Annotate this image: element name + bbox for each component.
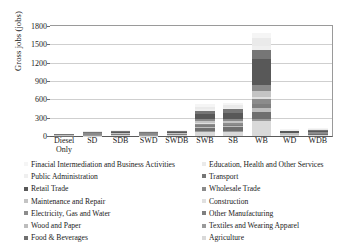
x-axis-tick-label: WB	[248, 137, 275, 154]
x-axis-tick-label: SWDB	[163, 137, 190, 154]
legend-item[interactable]: Finacial Intermediation and Business Act…	[24, 158, 196, 170]
legend-item-label: Other Manufacturing	[209, 209, 273, 218]
legend-column-left: Finacial Intermediation and Business Act…	[24, 158, 196, 244]
legend-item-label: Retail Trade	[31, 184, 68, 193]
legend-swatch-icon	[202, 211, 206, 215]
legend-swatch-icon	[24, 224, 28, 228]
bar-column	[304, 26, 331, 136]
bar-column	[135, 26, 162, 136]
legend-item-label: Maintenance and Repair	[31, 197, 105, 206]
legend-item-label: Electricity, Gas and Water	[31, 209, 110, 218]
legend-item[interactable]: Transport	[202, 170, 354, 182]
legend-item-label: Wood and Paper	[31, 221, 81, 230]
y-axis-title: Gross jobs (jobs)	[13, 0, 23, 101]
x-axis-tick-label: Diesel Only	[51, 137, 78, 154]
legend-swatch-icon	[24, 211, 28, 215]
legend-swatch-icon	[24, 187, 28, 191]
bar-column	[276, 26, 303, 136]
bar-column	[51, 26, 78, 136]
legend-item-label: Education, Health and Other Services	[209, 160, 324, 169]
bar-segment	[252, 121, 271, 136]
bar-segment	[252, 50, 271, 59]
stacked-bar[interactable]	[195, 104, 214, 136]
legend: Finacial Intermediation and Business Act…	[24, 158, 354, 244]
bar-column	[79, 26, 106, 136]
bar-segment	[252, 38, 271, 45]
bar-column	[248, 26, 275, 136]
legend-swatch-icon	[202, 199, 206, 203]
stacked-bar[interactable]	[280, 129, 299, 136]
legend-item-label: Food & Beverages	[31, 233, 88, 242]
legend-item[interactable]: Other Manufacturing	[202, 207, 354, 219]
legend-item[interactable]: Textiles and Wearing Apparel	[202, 219, 354, 231]
stacked-bar-chart: Gross jobs (jobs) 0300600900120015001800…	[0, 0, 356, 245]
bar-segment	[252, 112, 271, 119]
legend-item[interactable]: Food & Beverages	[24, 232, 196, 244]
legend-item[interactable]: Education, Health and Other Services	[202, 158, 354, 170]
legend-swatch-icon	[24, 236, 28, 240]
bar-column	[107, 26, 134, 136]
bar-group	[50, 26, 332, 136]
legend-item-label: Transport	[209, 172, 238, 181]
x-axis-tick-label: SB	[220, 137, 247, 154]
legend-item[interactable]: Wholesale Trade	[202, 183, 354, 195]
legend-swatch-icon	[24, 199, 28, 203]
bar-column	[163, 26, 190, 136]
legend-swatch-icon	[202, 174, 206, 178]
y-axis-tick-label: 1500	[31, 40, 47, 49]
y-axis-tick-label: 0	[43, 132, 47, 141]
legend-item-label: Agriculture	[209, 233, 244, 242]
legend-swatch-icon	[202, 224, 206, 228]
legend-item[interactable]: Electricity, Gas and Water	[24, 207, 196, 219]
legend-item-label: Wholesale Trade	[209, 184, 260, 193]
legend-item[interactable]: Maintenance and Repair	[24, 195, 196, 207]
legend-item-label: Public Administration	[31, 172, 98, 181]
legend-item-label: Construction	[209, 197, 248, 206]
bar-segment	[252, 59, 271, 85]
legend-swatch-icon	[24, 162, 28, 166]
legend-swatch-icon	[202, 162, 206, 166]
y-axis-tick-label: 1800	[31, 22, 47, 31]
legend-item[interactable]: Wood and Paper	[24, 219, 196, 231]
stacked-bar[interactable]	[223, 103, 242, 136]
legend-swatch-icon	[202, 236, 206, 240]
x-axis-tick-label: SWD	[135, 137, 162, 154]
legend-item[interactable]: Construction	[202, 195, 354, 207]
x-axis-tick-label: SWB	[192, 137, 219, 154]
legend-item[interactable]: Agriculture	[202, 232, 354, 244]
legend-item[interactable]: Retail Trade	[24, 183, 196, 195]
legend-item-label: Textiles and Wearing Apparel	[209, 221, 299, 230]
legend-swatch-icon	[24, 174, 28, 178]
x-axis-tick-label: WDB	[304, 137, 331, 154]
y-axis-tick-label: 1200	[31, 58, 47, 67]
legend-column-right: Education, Health and Other ServicesTran…	[202, 158, 354, 244]
y-axis-tick-label: 900	[35, 77, 47, 86]
bar-column	[220, 26, 247, 136]
x-axis-tick-labels: Diesel OnlySDSDBSWDSWDBSWBSBWBWDWDB	[50, 137, 332, 154]
legend-item[interactable]: Public Administration	[24, 170, 196, 182]
stacked-bar[interactable]	[252, 33, 271, 136]
y-axis-tick-label: 300	[35, 113, 47, 122]
x-axis-tick-label: SDB	[107, 137, 134, 154]
stacked-bar[interactable]	[308, 128, 327, 136]
legend-swatch-icon	[202, 187, 206, 191]
x-axis-tick-label: SD	[79, 137, 106, 154]
x-axis-tick-label: WD	[276, 137, 303, 154]
plot-area: 0300600900120015001800	[50, 25, 333, 137]
y-axis-tick-label: 600	[35, 95, 47, 104]
bar-column	[192, 26, 219, 136]
legend-item-label: Finacial Intermediation and Business Act…	[31, 160, 175, 169]
